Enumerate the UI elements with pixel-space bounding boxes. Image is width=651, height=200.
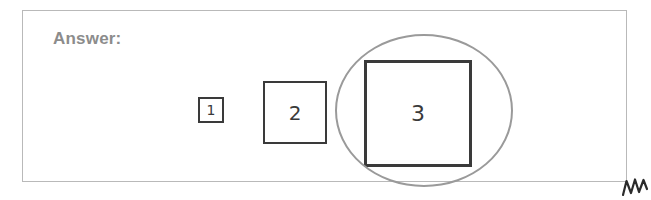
pen-mark-icon	[622, 176, 648, 198]
answer-label: Answer:	[53, 29, 121, 49]
answer-square-2[interactable]: 2	[263, 81, 327, 144]
square-2-label: 2	[289, 103, 302, 123]
square-1-label: 1	[207, 103, 216, 117]
square-3-label: 3	[411, 103, 425, 125]
answer-square-1[interactable]: 1	[198, 97, 224, 123]
answer-panel: Answer: 1 2 3	[22, 10, 627, 182]
selection-circle-icon	[335, 34, 513, 187]
answer-square-3[interactable]: 3	[364, 60, 472, 167]
